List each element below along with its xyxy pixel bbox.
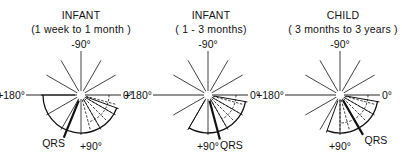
label-plus-90: +90° [197, 140, 219, 152]
axis-spoke [305, 75, 336, 93]
axis-spoke [320, 60, 338, 91]
axis-spoke [188, 60, 206, 91]
label-minus-90: -90° [198, 38, 217, 50]
axis-spoke [84, 75, 115, 93]
label-plus-90: +90° [329, 140, 351, 152]
label-plus-90: +90° [80, 140, 102, 152]
axis-spoke [61, 60, 79, 91]
axis-spoke [83, 60, 101, 91]
axis-spoke [173, 97, 204, 115]
dashed-spoke [85, 99, 107, 121]
label-qrs: QRS [42, 137, 65, 149]
axis-spoke [342, 60, 360, 91]
hexaxial-reference-diagrams: -90°+180°0°+90°QRS-90°+180°0°+90°QRS-90°… [0, 0, 402, 157]
dashed-spoke [344, 99, 366, 121]
label-plus-180: +180° [0, 89, 25, 101]
center-hub [204, 91, 212, 99]
hexaxial-diagram: -90°+180°0°+90°QRS [124, 38, 260, 152]
range-limit-line [326, 101, 338, 133]
axis-spoke [343, 75, 374, 93]
label-qrs: QRS [365, 134, 388, 146]
axis-spoke [210, 60, 228, 91]
hexaxial-diagram: -90°+180°0°+90°QRS [256, 38, 392, 152]
normal-range-arc [43, 95, 117, 133]
label-0: 0° [382, 89, 392, 101]
label-plus-180: +180° [256, 89, 284, 101]
label-minus-90: -90° [71, 38, 90, 50]
axis-spoke [46, 75, 77, 93]
center-hub [336, 91, 344, 99]
label-plus-180: +180° [124, 89, 152, 101]
label-minus-90: -90° [330, 38, 349, 50]
axis-spoke [173, 75, 204, 93]
label-qrs: QRS [220, 139, 243, 151]
axis-spoke [211, 75, 242, 93]
center-hub [77, 91, 85, 99]
axis-spoke [305, 97, 336, 115]
range-limit-line [87, 97, 119, 109]
hexaxial-diagram: -90°+180°0°+90°QRS [0, 38, 133, 152]
